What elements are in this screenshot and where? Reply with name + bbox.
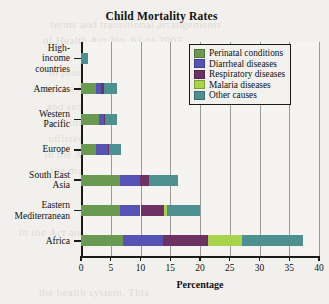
stacked-bar[interactable] xyxy=(81,144,121,155)
bar-segment[interactable] xyxy=(96,144,108,155)
legend-item[interactable]: Diarrheal diseases xyxy=(194,59,285,70)
x-tick-label: 0 xyxy=(66,263,96,273)
x-axis-title: Percentage xyxy=(81,279,319,290)
gridline xyxy=(170,42,171,256)
stacked-bar[interactable] xyxy=(81,205,200,216)
bar-segment[interactable] xyxy=(141,205,165,216)
x-tick-label: 35 xyxy=(274,263,304,273)
legend-swatch-malaria-diseases xyxy=(194,80,205,89)
legend-item[interactable]: Other causes xyxy=(194,90,285,101)
y-category-line: countries xyxy=(0,64,70,75)
y-category-label: South EastAsia xyxy=(0,170,70,191)
y-category-line: Americas xyxy=(0,84,70,95)
legend-swatch-respiratory-diseases xyxy=(194,70,205,79)
chart-title: Child Mortality Rates xyxy=(0,10,323,22)
bar-segment[interactable] xyxy=(167,205,200,216)
stacked-bar[interactable] xyxy=(81,175,178,186)
legend-label: Malaria diseases xyxy=(209,80,271,91)
bar-segment[interactable] xyxy=(140,175,149,186)
legend-swatch-diarrheal-diseases xyxy=(194,59,205,68)
bar-segment[interactable] xyxy=(242,235,303,246)
bar-segment[interactable] xyxy=(123,235,163,246)
legend-swatch-other-causes xyxy=(194,91,205,100)
bar-segment[interactable] xyxy=(81,53,88,64)
bar-segment[interactable] xyxy=(81,235,123,246)
bar-segment[interactable] xyxy=(208,235,243,246)
x-tick-label: 5 xyxy=(96,263,126,273)
bar-segment[interactable] xyxy=(120,175,140,186)
bar-segment[interactable] xyxy=(163,235,208,246)
x-tick-label: 40 xyxy=(304,263,329,273)
y-category-line: Africa xyxy=(0,236,70,247)
x-tick-label: 20 xyxy=(185,263,215,273)
bar-segment[interactable] xyxy=(105,114,117,125)
y-category-line: Asia xyxy=(0,180,70,191)
x-tick-label: 10 xyxy=(126,263,156,273)
stacked-bar[interactable] xyxy=(81,53,88,64)
y-category-label: Americas xyxy=(0,84,70,95)
stacked-bar[interactable] xyxy=(81,83,117,94)
chart-legend: Perinatal conditions Diarrheal diseases … xyxy=(189,44,291,105)
y-category-line: South East xyxy=(0,170,70,181)
legend-swatch-perinatal-conditions xyxy=(194,49,205,58)
x-axis-line xyxy=(81,256,319,258)
bar-segment[interactable] xyxy=(81,144,96,155)
y-category-line: income xyxy=(0,53,70,64)
y-category-line: High- xyxy=(0,43,70,54)
y-category-label: Africa xyxy=(0,236,70,247)
legend-item[interactable]: Perinatal conditions xyxy=(194,48,285,59)
y-category-line: Europe xyxy=(0,144,70,155)
legend-item[interactable]: Malaria diseases xyxy=(194,80,285,91)
y-category-line: Eastern xyxy=(0,200,70,211)
bar-segment[interactable] xyxy=(81,114,99,125)
legend-label: Perinatal conditions xyxy=(209,48,283,59)
y-category-line: Western xyxy=(0,109,70,120)
bar-segment[interactable] xyxy=(81,83,96,94)
bar-segment[interactable] xyxy=(120,205,141,216)
bar-segment[interactable] xyxy=(109,144,121,155)
x-tick-label: 25 xyxy=(215,263,245,273)
stacked-bar[interactable] xyxy=(81,235,303,246)
y-category-label: WesternPacific xyxy=(0,109,70,130)
y-category-line: Pacific xyxy=(0,119,70,130)
legend-label: Other causes xyxy=(209,90,257,101)
x-tick-label: 15 xyxy=(155,263,185,273)
gridline xyxy=(319,42,320,256)
y-category-label: EasternMediterranean xyxy=(0,200,70,221)
legend-label: Respiratory diseases xyxy=(209,69,285,80)
gridline xyxy=(141,42,142,256)
bar-segment[interactable] xyxy=(149,175,178,186)
bar-segment[interactable] xyxy=(81,175,120,186)
legend-label: Diarrheal diseases xyxy=(209,59,277,70)
bar-segment[interactable] xyxy=(81,205,120,216)
x-tick-label: 30 xyxy=(245,263,275,273)
y-category-label: Europe xyxy=(0,144,70,155)
stacked-bar[interactable] xyxy=(81,114,117,125)
legend-item[interactable]: Respiratory diseases xyxy=(194,69,285,80)
bar-segment[interactable] xyxy=(104,83,116,94)
y-category-label: High-incomecountries xyxy=(0,43,70,75)
y-category-line: Mediterranean xyxy=(0,211,70,222)
